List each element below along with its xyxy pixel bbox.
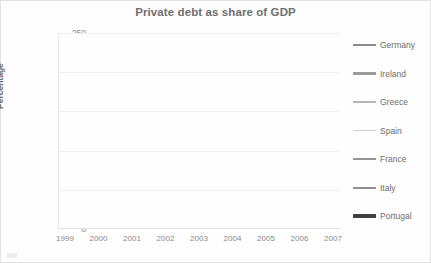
- x-axis-tick-label: 2007: [313, 234, 353, 243]
- chart-container: Private debt as share of GDP Percentage …: [0, 0, 431, 263]
- legend-item-portugal[interactable]: Portugal: [353, 210, 412, 222]
- legend-item-germany[interactable]: Germany: [353, 39, 415, 51]
- legend-item-france[interactable]: France: [353, 153, 406, 165]
- legend-item-italy[interactable]: Italy: [353, 182, 396, 194]
- y-axis-line: [58, 33, 59, 229]
- gridline: [58, 151, 340, 152]
- legend-label: Portugal: [380, 211, 412, 221]
- legend-swatch-icon: [353, 158, 376, 160]
- plot-background: [58, 33, 340, 229]
- gridline: [58, 33, 340, 34]
- legend-swatch-icon: [353, 72, 376, 74]
- legend-label: Greece: [380, 97, 408, 107]
- page-artifact: [7, 253, 17, 258]
- legend-swatch-icon: [353, 130, 376, 132]
- legend-item-spain[interactable]: Spain: [353, 125, 402, 137]
- legend-label: France: [380, 154, 406, 164]
- gridline: [58, 111, 340, 112]
- legend-label: Spain: [380, 126, 402, 136]
- legend-item-ireland[interactable]: Ireland: [353, 68, 406, 80]
- legend-swatch-icon: [353, 44, 376, 47]
- legend-label: Germany: [380, 40, 415, 50]
- plot-area: [58, 33, 340, 229]
- legend-swatch-icon: [353, 101, 376, 103]
- x-axis-line: [58, 228, 340, 229]
- legend-label: Italy: [380, 183, 396, 193]
- legend-swatch-icon: [353, 187, 376, 189]
- gridline: [58, 190, 340, 191]
- legend-swatch-icon: [353, 214, 376, 217]
- y-axis-label: Percentage: [0, 63, 5, 109]
- gridline: [58, 72, 340, 73]
- legend-label: Ireland: [380, 69, 406, 79]
- legend-item-greece[interactable]: Greece: [353, 96, 408, 108]
- chart-title: Private debt as share of GDP: [1, 6, 430, 18]
